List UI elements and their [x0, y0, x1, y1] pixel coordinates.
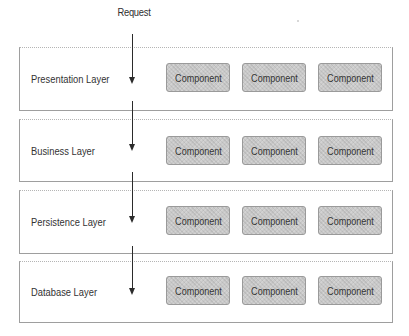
component-box: Component	[166, 136, 230, 165]
down-arrow-icon	[132, 34, 133, 79]
component-box: Component	[318, 276, 382, 305]
layer-business: Business Layer Component Component Compo…	[19, 119, 393, 182]
component-label: Component	[251, 72, 298, 84]
component-label: Component	[327, 145, 374, 157]
component-label: Component	[175, 215, 222, 227]
component-label: Component	[251, 145, 298, 157]
layer-label: Persistence Layer	[31, 216, 106, 228]
layer-presentation: Presentation Layer Component Component C…	[19, 47, 393, 111]
component-label: Component	[327, 72, 374, 84]
component-label: Component	[251, 215, 298, 227]
down-arrow-icon	[132, 172, 133, 218]
component-box: Component	[242, 276, 306, 305]
down-arrow-icon	[132, 246, 133, 290]
component-box: Component	[166, 276, 230, 305]
down-arrow-icon	[132, 101, 133, 146]
request-label: Request	[116, 6, 152, 18]
component-label: Component	[251, 285, 298, 297]
component-label: Component	[327, 215, 374, 227]
stray-dot	[297, 20, 299, 22]
component-box: Component	[166, 206, 230, 235]
component-box: Component	[318, 63, 382, 92]
layer-persistence: Persistence Layer Component Component Co…	[19, 190, 393, 254]
layer-database: Database Layer Component Component Compo…	[19, 261, 393, 323]
component-box: Component	[318, 136, 382, 165]
component-box: Component	[166, 63, 230, 92]
component-box: Component	[242, 63, 306, 92]
component-box: Component	[318, 206, 382, 235]
component-box: Component	[242, 206, 306, 235]
component-label: Component	[175, 285, 222, 297]
layer-label: Database Layer	[31, 286, 97, 298]
layer-label: Presentation Layer	[31, 73, 109, 85]
component-box: Component	[242, 136, 306, 165]
component-label: Component	[175, 72, 222, 84]
component-label: Component	[175, 145, 222, 157]
layer-label: Business Layer	[31, 145, 95, 157]
component-label: Component	[327, 285, 374, 297]
